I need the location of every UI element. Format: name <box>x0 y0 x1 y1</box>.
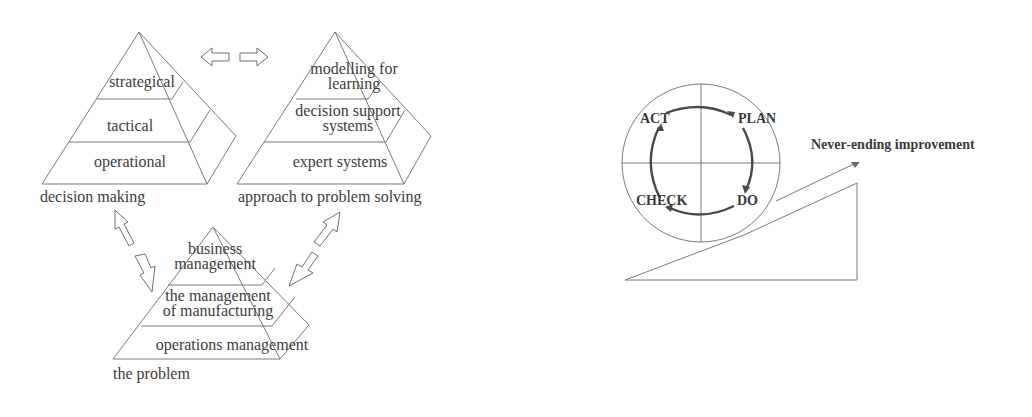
figure-page: strategical tactical operational decisio… <box>0 0 1032 417</box>
pyramid-approach-level-modelling: modelling for learning <box>310 61 398 91</box>
pyramid-problem-level-manufacturing-line2: of manufacturing <box>163 303 274 318</box>
pyramid-approach-caption: approach to problem solving <box>238 189 422 205</box>
diagonal-arrows-right-shape <box>289 212 340 286</box>
pyramid-approach-level-expert: expert systems <box>293 154 388 170</box>
pyramid-decision-caption: decision making <box>40 189 145 205</box>
pyramid-approach-level-dss: decision support systems <box>295 103 400 133</box>
pyramid-decision-level-strategical: strategical <box>109 74 175 90</box>
pyramid-problem-level-operations: operations management <box>156 337 308 353</box>
pyramid-problem-level-manufacturing: the management of manufacturing <box>163 288 274 318</box>
pdca-plan-label: PLAN <box>738 111 776 127</box>
pyramid-problem-caption: the problem <box>113 366 190 382</box>
pdca-do-label: DO <box>737 193 758 209</box>
pyramid-decision-level-tactical: tactical <box>107 118 153 134</box>
pdca-act-label: ACT <box>640 111 670 127</box>
pyramid-problem-level-business-line2: management <box>174 256 256 271</box>
pyramid-problem-level-business: business management <box>174 241 256 271</box>
pyramid-approach-level-modelling-line1: modelling for <box>310 61 398 76</box>
pyramid-problem-level-manufacturing-line1: the management <box>163 288 274 303</box>
diagonal-arrows-left-shape <box>115 210 155 292</box>
pyramid-problem-level-business-line1: business <box>174 241 256 256</box>
pyramid-decision-level-operational: operational <box>94 154 166 170</box>
improvement-slope-shape <box>625 163 857 280</box>
pdca-check-label: CHECK <box>636 193 687 209</box>
pyramid-approach-level-modelling-line2: learning <box>310 76 398 91</box>
diagram-graphics <box>0 0 1032 417</box>
pyramid-approach-level-dss-line2: systems <box>295 118 400 133</box>
left-right-arrows-shape <box>201 48 268 66</box>
never-ending-improvement-label: Never-ending improvement <box>811 137 975 153</box>
pyramid-approach-level-dss-line1: decision support <box>295 103 400 118</box>
